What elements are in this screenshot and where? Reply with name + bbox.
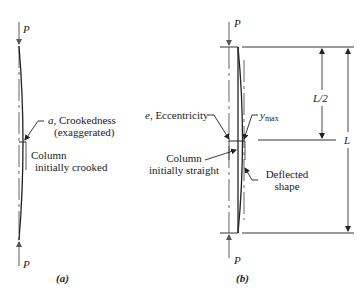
panel-b-graphics	[205, 22, 354, 258]
deflected-shape	[238, 47, 243, 233]
deflected-line2: shape	[262, 180, 312, 192]
load-label-top-a: P	[23, 23, 30, 35]
load-label-bottom-b: P	[234, 254, 241, 266]
column-straight-line2: initially straight	[146, 164, 222, 176]
diagram-graphics	[0, 0, 364, 294]
crookedness-leader	[25, 121, 44, 140]
deflected-line1: Deflected	[262, 168, 312, 180]
ymax-label: ymax	[260, 109, 279, 123]
eccentricity-leader	[208, 115, 229, 139]
crooked-column	[19, 46, 23, 240]
eccentricity-text: , Eccentricity	[150, 109, 209, 121]
panel-a-graphics	[19, 22, 44, 266]
load-label-bottom-a: P	[23, 258, 30, 270]
dim-half-label: L/2	[313, 92, 328, 104]
column-diagram: P P a, Crookedness (exaggerated) Column …	[0, 0, 364, 294]
load-label-top-b: P	[234, 17, 241, 29]
caption-a: (a)	[56, 272, 69, 284]
crookedness-text: , Crookedness	[54, 114, 116, 126]
deflected-leader	[245, 168, 258, 180]
eccentricity-label: e, Eccentricity	[145, 109, 209, 121]
column-crooked-line1: Column	[31, 149, 66, 161]
ymax-leader	[244, 115, 258, 139]
column-straight-line1: Column	[160, 152, 208, 164]
crookedness-label: a, Crookedness	[48, 114, 116, 126]
column-straight-leader	[205, 150, 236, 160]
ymax-sub: max	[265, 114, 279, 123]
crookedness-note: (exaggerated)	[54, 126, 114, 138]
caption-b: (b)	[236, 272, 249, 284]
column-crooked-line2: initially crooked	[35, 161, 107, 173]
dim-full-label: L	[344, 134, 350, 146]
